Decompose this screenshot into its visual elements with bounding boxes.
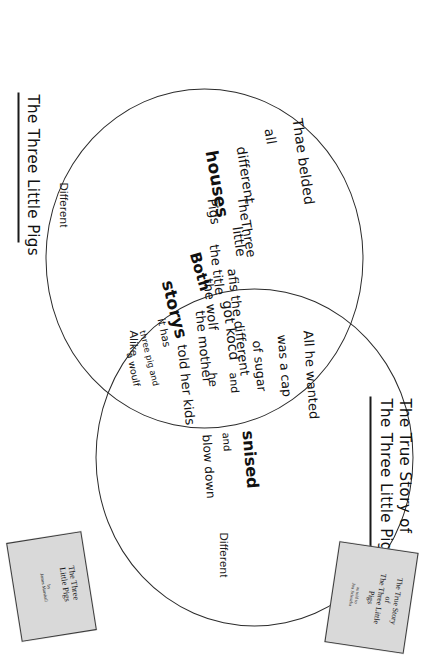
label-different-right: Different	[217, 532, 229, 577]
heading-true-story-line2: The Three Little Pigs!	[376, 398, 394, 566]
venn-diagram-sheet: Different Alike Different The Three Litt…	[0, 0, 435, 669]
worksheet-page: Different Alike Different The Three Litt…	[0, 0, 435, 669]
note-pigs-7: little	[229, 225, 249, 257]
label-different-left: Different	[57, 182, 69, 227]
note-pigs-6: Pigs	[204, 197, 223, 225]
note-true-story-7: and	[220, 432, 232, 452]
book-cover-three-little-pigs: The Three Little Pigs by James Marshall	[6, 531, 97, 642]
book-cover-right-title: The True Story of The Three Little Pigs	[361, 571, 403, 627]
heading-true-story-line1: The True Story of	[395, 398, 413, 533]
heading-underline-left	[17, 92, 19, 242]
book-cover-right-author: as told to Jon Scieszka	[347, 582, 361, 607]
book-cover-true-story: The True Story of The Three Little Pigs …	[324, 541, 418, 654]
book-cover-left-title: The Three Little Pigs	[56, 565, 80, 602]
heading-three-little-pigs: The Three Little Pigs	[22, 94, 41, 255]
heading-true-story: The True Story ofThe Three Little Pigs!	[375, 398, 413, 566]
book-cover-left-author: by James Marshall	[39, 572, 54, 602]
note-pigs-2: all	[261, 127, 279, 145]
